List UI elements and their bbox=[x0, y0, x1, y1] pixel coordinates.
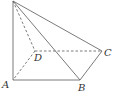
edge-BC bbox=[80, 51, 102, 80]
edge-PB bbox=[13, 1, 80, 80]
edge-DA-hidden bbox=[13, 51, 35, 80]
label-C: C bbox=[104, 47, 112, 58]
label-B: B bbox=[77, 82, 85, 93]
edge-PC bbox=[13, 1, 102, 51]
label-A: A bbox=[1, 79, 9, 90]
pyramid-diagram: D C A B bbox=[0, 0, 115, 103]
edge-PD-hidden bbox=[13, 1, 35, 51]
label-D: D bbox=[33, 52, 42, 63]
